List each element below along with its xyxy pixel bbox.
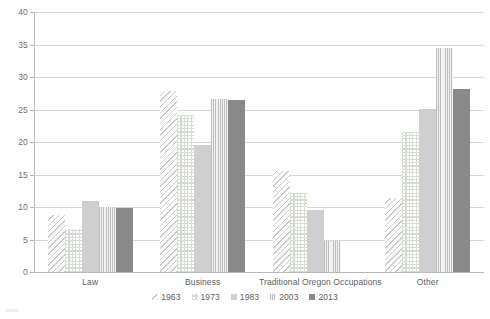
bar (453, 89, 470, 272)
y-tick-label-40: 40 (0, 7, 28, 17)
bar (65, 229, 82, 272)
legend-item[interactable]: 1983 (231, 292, 259, 302)
legend-swatch-icon (270, 294, 276, 300)
bar (160, 91, 177, 272)
legend-swatch-icon (309, 294, 315, 300)
bar-group (34, 12, 147, 272)
bar (211, 99, 228, 272)
bar (290, 193, 307, 272)
y-tick-label-30: 30 (0, 72, 28, 82)
bar-group-bars (372, 12, 485, 272)
category-label: Law (34, 277, 147, 287)
bar-group-bars (147, 12, 260, 272)
plot-area (34, 12, 484, 272)
y-tick-label-20: 20 (0, 137, 28, 147)
bar (324, 241, 341, 272)
bar-group (259, 12, 372, 272)
bar (99, 207, 116, 272)
legend-label: 2003 (279, 292, 298, 302)
bar-chart: 0510152025303540 LawBusinessTraditional … (0, 0, 490, 319)
bar (273, 171, 290, 272)
y-tick-label-25: 25 (0, 105, 28, 115)
legend-label: 1973 (201, 292, 220, 302)
legend-item[interactable]: 1973 (192, 292, 220, 302)
bar (307, 210, 324, 272)
legend-label: 1963 (161, 292, 180, 302)
y-tick-label-10: 10 (0, 202, 28, 212)
category-label: Business (147, 277, 260, 287)
bar-group-bars (259, 12, 372, 272)
y-tick-label-15: 15 (0, 170, 28, 180)
legend-label: 2013 (318, 292, 337, 302)
y-tick-label-5: 5 (0, 235, 28, 245)
bar-group (147, 12, 260, 272)
legend-item[interactable]: 1963 (152, 292, 180, 302)
legend-swatch-icon (192, 294, 198, 300)
bar (402, 132, 419, 272)
y-tick-label-0: 0 (0, 267, 28, 277)
bar (194, 145, 211, 272)
corner-artifact (6, 309, 18, 312)
chart-legend: 19631973198320032013 (0, 292, 490, 302)
y-tick-label-35: 35 (0, 40, 28, 50)
bar-group-bars (34, 12, 147, 272)
legend-swatch-icon (231, 294, 237, 300)
category-label: Other (372, 277, 485, 287)
bar (419, 109, 436, 272)
legend-item[interactable]: 2013 (309, 292, 337, 302)
legend-item[interactable]: 2003 (270, 292, 298, 302)
bar-group (372, 12, 485, 272)
legend-label: 1983 (240, 292, 259, 302)
bar (48, 215, 65, 272)
bar (177, 115, 194, 272)
legend-swatch-icon (152, 294, 158, 300)
category-label: Traditional Oregon Occupations (259, 277, 372, 287)
bar (82, 201, 99, 272)
bar (116, 208, 133, 272)
bar (436, 48, 453, 272)
bar (385, 198, 402, 272)
bar (228, 100, 245, 272)
gridline-0 (34, 272, 484, 273)
